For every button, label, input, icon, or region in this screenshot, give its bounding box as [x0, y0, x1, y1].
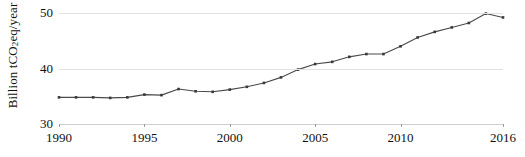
x-tick-mark-2005 — [315, 124, 316, 127]
data-point-2010 — [399, 45, 402, 48]
data-point-2006 — [331, 61, 334, 64]
data-point-1996 — [160, 94, 163, 97]
data-point-1994 — [126, 96, 129, 99]
x-tick-mark-2010 — [401, 124, 402, 127]
data-point-2000 — [228, 88, 231, 91]
x-tick-mark-2016 — [503, 124, 504, 127]
x-tick-label-2005: 2005 — [302, 130, 328, 146]
x-tick-label-2016: 2016 — [490, 130, 516, 146]
y-tick-label-40: 40 — [40, 61, 53, 77]
data-point-2005 — [314, 63, 317, 66]
data-point-2002 — [263, 82, 266, 85]
y-axis-title-prefix: Billion tCO — [5, 46, 21, 108]
y-tick-label-50: 50 — [40, 5, 53, 21]
x-tick-label-1995: 1995 — [131, 130, 157, 146]
chart-figure: Billion tCO2eq/year 30405019901995200020… — [0, 0, 525, 157]
x-tick-mark-1990 — [59, 124, 60, 127]
series-markers-group — [58, 12, 505, 99]
data-point-1997 — [177, 88, 180, 91]
data-point-1992 — [92, 96, 95, 99]
data-point-2001 — [246, 86, 249, 89]
data-point-2014 — [468, 22, 471, 25]
x-tick-label-1990: 1990 — [46, 130, 72, 146]
y-gridline-30 — [59, 124, 503, 125]
plot-area: 304050199019952000200520102016 — [59, 13, 503, 124]
data-point-2012 — [433, 31, 436, 34]
x-tick-mark-2000 — [230, 124, 231, 127]
y-gridline-50 — [59, 13, 503, 14]
data-point-1999 — [211, 91, 214, 94]
data-point-2003 — [280, 76, 283, 79]
data-point-1995 — [143, 93, 146, 96]
data-point-2011 — [416, 36, 419, 39]
y-axis-title: Billion tCO2eq/year — [2, 0, 24, 134]
data-point-1993 — [109, 97, 112, 100]
y-gridline-40 — [59, 69, 503, 70]
y-axis-title-suffix: eq/year — [5, 3, 21, 42]
data-point-2007 — [348, 56, 351, 59]
data-point-2008 — [365, 53, 368, 56]
data-point-2009 — [382, 53, 385, 56]
x-tick-label-2010: 2010 — [388, 130, 414, 146]
y-axis-title-subscript: 2 — [10, 42, 20, 47]
data-point-1991 — [75, 96, 78, 99]
data-point-1990 — [58, 96, 61, 99]
series-line-global-emissions — [59, 14, 503, 98]
x-tick-label-2000: 2000 — [217, 130, 243, 146]
data-point-1998 — [194, 90, 197, 93]
x-tick-mark-1995 — [144, 124, 145, 127]
data-point-2016 — [502, 16, 505, 19]
data-point-2013 — [450, 26, 453, 29]
